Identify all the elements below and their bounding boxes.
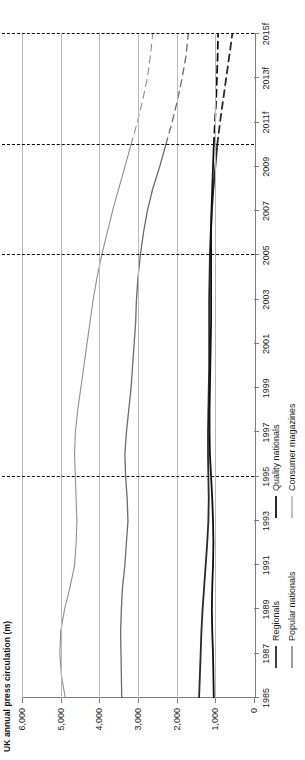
legend-column: Quality nationalsConsumer magazines (268, 403, 300, 518)
gridline (99, 34, 100, 698)
x-tick-mark (254, 564, 259, 565)
y-tick-mark (138, 698, 139, 703)
x-tick-label: 2015f (261, 23, 271, 46)
x-tick-mark (254, 210, 259, 211)
annotation-line (2, 476, 254, 477)
legend-swatch-icon (289, 496, 295, 518)
series-line-consumer-magazines (60, 145, 131, 698)
legend-swatch-icon (273, 646, 279, 668)
chart-legend: RegionalsPopular nationalsQuality nation… (268, 68, 302, 668)
legend-label: Popular nationals (287, 571, 297, 641)
x-tick-mark (254, 254, 259, 255)
x-tick-mark (254, 608, 259, 609)
legend-item-popular-nationals[interactable]: Popular nationals (284, 571, 300, 668)
x-axis-line (255, 33, 256, 698)
x-tick-mark (254, 653, 259, 654)
series-line-popular-nationals (121, 145, 166, 698)
y-tick-mark (99, 698, 100, 703)
rotated-chart-canvas: UK annual press circulation (m) 01,0002,… (0, 0, 305, 760)
x-tick-mark (254, 476, 259, 477)
legend-column: RegionalsPopular nationals (268, 571, 300, 668)
x-tick-mark (254, 33, 259, 34)
legend-item-consumer-magazines[interactable]: Consumer magazines (284, 403, 300, 518)
x-tick-mark (254, 166, 259, 167)
x-tick-mark (254, 387, 259, 388)
x-tick-mark (254, 520, 259, 521)
annotation-line (2, 254, 254, 255)
legend-swatch-icon (273, 496, 279, 518)
y-tick-mark (177, 698, 178, 703)
x-tick-mark (254, 431, 259, 432)
legend-item-quality-nationals[interactable]: Quality nationals (268, 403, 284, 518)
plot-wrapper: UK annual press circulation (m) 01,0002,… (0, 0, 305, 760)
x-tick-label: 1985 (261, 688, 271, 708)
annotation-line (2, 144, 254, 145)
gridline (61, 34, 62, 698)
x-tick-mark (254, 343, 259, 344)
plot-area: 01,0002,0003,0004,0005,0006,000 19851987… (22, 34, 254, 698)
y-tick-label: 4,000 (94, 708, 104, 756)
series-line-consumer-magazines-forecast (131, 34, 153, 145)
y-tick-mark (22, 698, 23, 703)
gridline (177, 34, 178, 698)
y-tick-mark (61, 698, 62, 703)
legend-label: Quality nationals (271, 424, 281, 491)
series-line-regionals-forecast (217, 34, 232, 145)
y-tick-label: 2,000 (172, 708, 182, 756)
y-tick-mark (215, 698, 216, 703)
x-tick-mark (254, 77, 259, 78)
legend-label: Regionals (271, 601, 281, 641)
gridline (138, 34, 139, 698)
y-tick-label: 0 (249, 708, 259, 756)
gridline (22, 34, 23, 698)
legend-label: Consumer magazines (287, 403, 297, 491)
legend-item-regionals[interactable]: Regionals (268, 571, 284, 668)
x-tick-mark (254, 697, 259, 698)
chart-figure: UK annual press circulation (m) 01,0002,… (0, 0, 305, 760)
y-tick-mark (254, 698, 255, 703)
gridline (215, 34, 216, 698)
y-tick-label: 6,000 (17, 708, 27, 756)
y-tick-label: 1,000 (210, 708, 220, 756)
chart-title: UK annual press circulation (m) (2, 621, 12, 752)
x-tick-mark (254, 299, 259, 300)
legend-swatch-icon (289, 646, 295, 668)
y-tick-label: 3,000 (133, 708, 143, 756)
annotation-line (2, 33, 254, 34)
y-tick-label: 5,000 (56, 708, 66, 756)
x-tick-mark (254, 122, 259, 123)
